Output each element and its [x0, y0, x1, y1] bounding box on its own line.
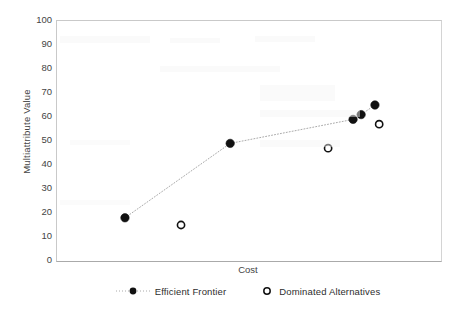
data-point-filled-circle[interactable]	[121, 214, 129, 222]
data-point-open-circle[interactable]	[325, 145, 332, 152]
data-point-open-circle[interactable]	[376, 121, 383, 128]
filled-circle-icon	[116, 285, 150, 297]
y-axis-tick-label: 90	[24, 39, 52, 49]
y-axis-tick-labels: 1009080706050403020100	[24, 0, 52, 310]
legend-item-dominated-alternatives[interactable]: Dominated Alternatives	[260, 285, 380, 297]
x-axis-title: Cost	[56, 264, 440, 275]
data-point-filled-circle[interactable]	[371, 101, 379, 109]
y-axis-tick-label: 80	[24, 63, 52, 73]
efficient-frontier-line	[125, 105, 375, 218]
y-axis-tick-label: 50	[24, 135, 52, 145]
y-axis-tick-label: 10	[24, 231, 52, 241]
chart-legend: Efficient FrontierDominated Alternatives	[56, 285, 440, 297]
y-axis-tick-label: 20	[24, 207, 52, 217]
legend-label: Efficient Frontier	[155, 286, 227, 297]
data-point-filled-circle[interactable]	[226, 139, 234, 147]
data-point-open-circle[interactable]	[177, 221, 184, 228]
y-axis-tick-label: 0	[24, 255, 52, 265]
y-axis-tick-label: 40	[24, 159, 52, 169]
y-axis-tick-label: 70	[24, 87, 52, 97]
series-line-efficient-frontier	[125, 105, 375, 218]
y-axis-tick-label: 60	[24, 111, 52, 121]
data-point-filled-circle[interactable]	[357, 110, 365, 118]
plot-svg	[57, 21, 441, 261]
legend-label: Dominated Alternatives	[279, 286, 380, 297]
y-axis-tick-label: 30	[24, 183, 52, 193]
data-markers	[121, 101, 383, 229]
legend-item-efficient-frontier[interactable]: Efficient Frontier	[116, 285, 227, 297]
plot-area	[56, 20, 442, 262]
open-circle-icon	[260, 285, 274, 297]
y-axis-tick-label: 100	[24, 15, 52, 25]
data-point-filled-circle[interactable]	[349, 115, 357, 123]
chart-container: Multiattribute Value 1009080706050403020…	[0, 0, 459, 310]
